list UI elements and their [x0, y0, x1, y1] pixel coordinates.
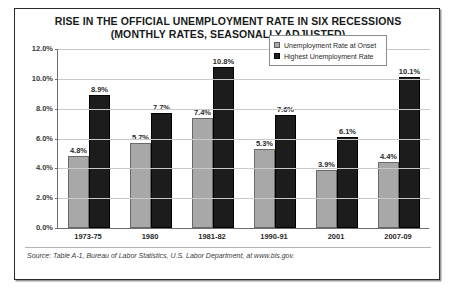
chart-title: RISE IN THE OFFICIAL UNEMPLOYMENT RATE I… [15, 15, 441, 28]
bar[interactable]: 7.7% [151, 113, 172, 228]
y-tick-mark [55, 109, 58, 110]
legend-item-peak: Highest Unemployment Rate [274, 51, 382, 61]
bar[interactable]: 10.8% [213, 67, 234, 228]
source-divider [25, 247, 431, 248]
chart-frame: RISE IN THE OFFICIAL UNEMPLOYMENT RATE I… [14, 8, 440, 280]
x-axis-label: 1990-91 [243, 232, 305, 241]
bar[interactable]: 10.1% [399, 77, 420, 228]
chart-legend: Unemployment Rate at Onset Highest Unemp… [269, 35, 387, 66]
bar-value-label: 6.1% [339, 127, 356, 136]
gridline [58, 79, 430, 80]
legend-swatch-peak-icon [274, 53, 280, 59]
legend-label-onset: Unemployment Rate at Onset [284, 42, 376, 49]
bar[interactable]: 6.1% [337, 137, 358, 228]
gridline [58, 139, 430, 140]
bar[interactable]: 4.4% [378, 162, 399, 228]
bar-value-label: 4.4% [380, 152, 397, 161]
y-tick-mark [55, 168, 58, 169]
y-tick-mark [55, 228, 58, 229]
y-tick-label: 12.0% [13, 44, 53, 53]
x-axis-label: 1973-75 [57, 232, 119, 241]
bar[interactable]: 5.7% [130, 143, 151, 228]
bar[interactable]: 7.6% [275, 115, 296, 228]
y-tick-mark [55, 198, 58, 199]
bar-value-label: 5.3% [256, 139, 273, 148]
x-axis-label: 1981-82 [181, 232, 243, 241]
bar-value-label: 10.1% [399, 67, 420, 76]
legend-label-peak: Highest Unemployment Rate [284, 53, 374, 60]
y-tick-label: 10.0% [13, 74, 53, 83]
bar[interactable]: 7.4% [192, 118, 213, 228]
x-axis-labels: 1973-7519801981-821990-9120012007-09 [57, 232, 429, 241]
bar-value-label: 4.8% [70, 146, 87, 155]
legend-swatch-onset-icon [274, 42, 280, 48]
bar-value-label: 10.8% [213, 57, 234, 66]
y-tick-mark [55, 49, 58, 50]
y-tick-label: 6.0% [13, 134, 53, 143]
y-tick-label: 4.0% [13, 163, 53, 172]
y-tick-label: 0.0% [13, 223, 53, 232]
gridline [58, 198, 430, 199]
legend-item-onset: Unemployment Rate at Onset [274, 40, 382, 50]
gridline [58, 168, 430, 169]
bar-value-label: 7.7% [153, 103, 170, 112]
source-note: Source: Table A-1, Bureau of Labor Stati… [27, 252, 431, 259]
y-tick-mark [55, 79, 58, 80]
gridline [58, 109, 430, 110]
bar[interactable]: 8.9% [89, 95, 110, 228]
bar[interactable]: 5.3% [254, 149, 275, 228]
y-tick-label: 8.0% [13, 104, 53, 113]
bar-value-label: 5.7% [132, 133, 149, 142]
x-axis-label: 2001 [305, 232, 367, 241]
x-axis-label: 2007-09 [367, 232, 429, 241]
y-tick-mark [55, 139, 58, 140]
bar-value-label: 8.9% [91, 85, 108, 94]
y-tick-label: 2.0% [13, 193, 53, 202]
plot-area: 4.8%8.9%5.7%7.7%7.4%10.8%5.3%7.6%3.9%6.1… [57, 49, 429, 229]
x-axis-label: 1980 [119, 232, 181, 241]
